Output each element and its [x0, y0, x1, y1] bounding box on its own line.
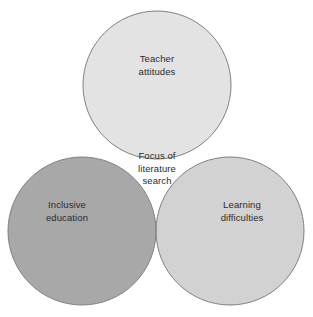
circle-learning-difficulties — [156, 157, 304, 305]
venn-diagram-canvas — [0, 0, 313, 317]
circle-inclusive-education — [8, 157, 156, 305]
venn-diagram: Teacher attitudes Focus of literature se… — [0, 0, 313, 317]
circle-teacher-attitudes — [83, 11, 231, 159]
